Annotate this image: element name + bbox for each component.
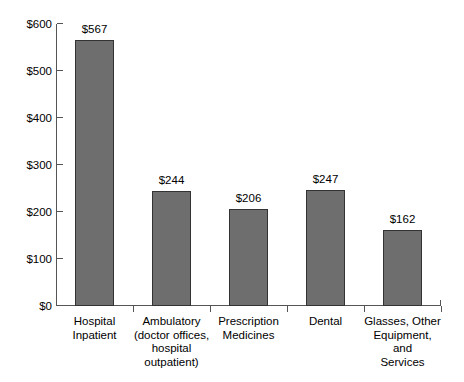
- bar-group[interactable]: $162: [383, 24, 422, 306]
- category-label-line: hospital: [133, 342, 210, 356]
- category-label-line: Hospital: [56, 315, 133, 329]
- category-label-line: Glasses, Other: [364, 315, 441, 329]
- x-axis-category-label: HospitalInpatient: [56, 315, 133, 342]
- category-label-line: Inpatient: [56, 329, 133, 343]
- category-label-line: Ambulatory: [133, 315, 210, 329]
- bar-value-label: $247: [313, 173, 339, 186]
- bar-value-label: $162: [390, 213, 416, 226]
- category-label-line: Services: [364, 356, 441, 370]
- category-label-line: outpatient): [133, 356, 210, 370]
- y-axis-tick-label: $500: [26, 64, 52, 78]
- x-axis-tick-mark: [133, 306, 134, 312]
- x-axis-tick-mark: [441, 306, 442, 312]
- x-axis-tick-mark: [287, 306, 288, 312]
- x-axis-category-label: Ambulatory(doctor offices,hospitaloutpat…: [133, 315, 210, 369]
- y-axis-tick: $300: [0, 158, 64, 172]
- y-axis-tick-label: $200: [26, 205, 52, 219]
- category-label-line: (doctor offices,: [133, 329, 210, 343]
- plot-area: $567$244$206$247$162: [56, 24, 441, 306]
- bar[interactable]: [306, 190, 345, 306]
- bar-group[interactable]: $244: [152, 24, 191, 306]
- bar-group[interactable]: $567: [75, 24, 114, 306]
- y-axis-tick-label: $300: [26, 158, 52, 172]
- bar[interactable]: [152, 191, 191, 306]
- category-label-line: Dental: [287, 315, 364, 329]
- y-axis-tick: $200: [0, 205, 64, 219]
- bar[interactable]: [75, 40, 114, 306]
- y-axis-tick-label: $0: [39, 299, 52, 313]
- category-label-line: Medicines: [210, 329, 287, 343]
- bar-chart: $0$100$200$300$400$500$600 $567$244$206$…: [0, 0, 464, 382]
- y-axis-tick: $500: [0, 64, 64, 78]
- bar-group[interactable]: $206: [229, 24, 268, 306]
- y-axis-tick: $600: [0, 17, 64, 31]
- y-axis-tick-label: $100: [26, 252, 52, 266]
- category-label-line: Equipment, and: [364, 329, 441, 356]
- y-axis-tick-label: $400: [26, 111, 52, 125]
- bar-group[interactable]: $247: [306, 24, 345, 306]
- bar[interactable]: [229, 209, 268, 306]
- x-axis-tick-mark: [364, 306, 365, 312]
- bar-value-label: $206: [236, 192, 262, 205]
- y-axis-tick-label: $600: [26, 17, 52, 31]
- y-axis-tick: $100: [0, 252, 64, 266]
- x-axis-category-label: Dental: [287, 315, 364, 329]
- category-label-line: Prescription: [210, 315, 287, 329]
- bar[interactable]: [383, 230, 422, 306]
- x-axis-tick-mark: [210, 306, 211, 312]
- bar-value-label: $567: [82, 23, 108, 36]
- y-axis-tick: $0: [0, 299, 64, 313]
- bar-value-label: $244: [159, 174, 185, 187]
- x-axis-category-label: PrescriptionMedicines: [210, 315, 287, 342]
- y-axis-tick: $400: [0, 111, 64, 125]
- x-axis-category-label: Glasses, OtherEquipment, andServices: [364, 315, 441, 369]
